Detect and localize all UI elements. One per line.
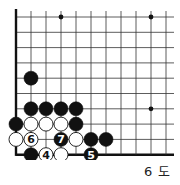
diagram-caption: 6 도: [144, 161, 171, 180]
black-stone-icon: [99, 132, 113, 146]
black-stone: [99, 132, 113, 146]
star-point-icon: [149, 106, 154, 111]
white-stone-icon: [54, 148, 68, 160]
move-number-label: 5: [87, 149, 95, 160]
white-stone-icon: [39, 117, 53, 131]
black-stone-icon: [69, 117, 83, 131]
white-stone: [24, 117, 38, 131]
star-point-icon: [149, 15, 154, 20]
star-point-icon: [59, 15, 64, 20]
black-stone-icon: [24, 102, 38, 116]
white-stone: [54, 117, 68, 131]
black-stone: [9, 117, 23, 131]
black-stone-icon: [39, 102, 53, 116]
black-stone-icon: [84, 132, 98, 146]
black-stone-icon: [24, 148, 38, 160]
black-stone: [69, 117, 83, 131]
white-stone: 4: [39, 148, 53, 160]
move-number-label: 7: [57, 133, 65, 146]
black-stone: 7: [54, 132, 68, 146]
black-stone-icon: [69, 102, 83, 116]
white-stone: [54, 148, 68, 160]
white-stone: [39, 117, 53, 131]
white-stone: [69, 132, 83, 146]
move-number-label: 4: [42, 149, 50, 160]
black-stone: 5: [84, 148, 98, 160]
black-stone: [24, 148, 38, 160]
black-stone: [84, 132, 98, 146]
go-board-diagram: 6745: [0, 0, 180, 160]
white-stone: 6: [24, 132, 38, 146]
black-stone: [24, 102, 38, 116]
black-stone: [24, 71, 38, 85]
white-stone: [9, 132, 23, 146]
black-stone: [39, 102, 53, 116]
black-stone-icon: [9, 117, 23, 131]
white-stone-icon: [54, 117, 68, 131]
black-stone: [54, 102, 68, 116]
black-stone: [69, 102, 83, 116]
white-stone-icon: [24, 117, 38, 131]
black-stone-icon: [24, 71, 38, 85]
move-number-label: 6: [27, 133, 35, 146]
white-stone-icon: [9, 132, 23, 146]
black-stone-icon: [54, 102, 68, 116]
white-stone-icon: [69, 132, 83, 146]
